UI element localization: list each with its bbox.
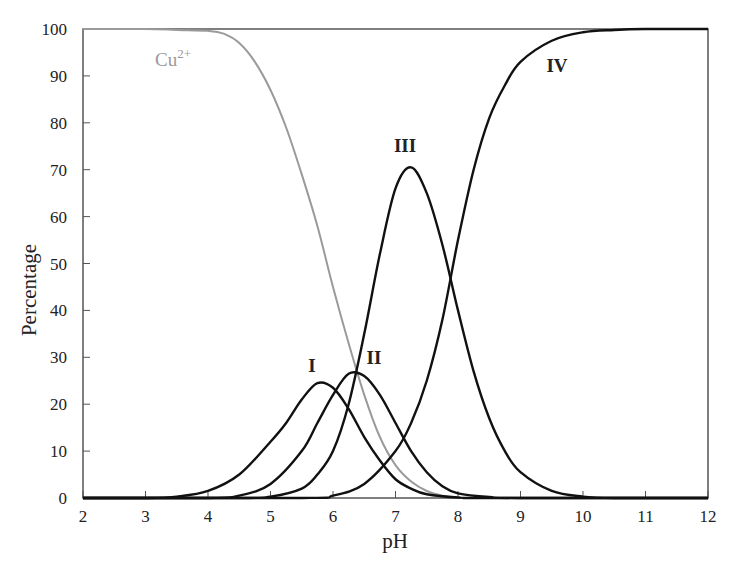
curve-iii	[83, 167, 708, 498]
curve-label-cu2: Cu2+	[155, 46, 191, 70]
x-tick-label: 11	[637, 507, 653, 526]
x-axis-title: pH	[382, 529, 408, 553]
curve-label-iii: III	[394, 135, 416, 156]
x-tick-label: 2	[79, 507, 88, 526]
y-tick-label: 40	[50, 301, 67, 320]
x-tick-label: 10	[575, 507, 592, 526]
x-tick-label: 12	[700, 507, 717, 526]
x-tick-label: 8	[454, 507, 463, 526]
curve-i	[83, 382, 708, 498]
y-tick-label: 50	[50, 255, 67, 274]
x-tick-label: 3	[141, 507, 150, 526]
y-tick-label: 90	[50, 67, 67, 86]
species-distribution-chart: 234567891011120102030405060708090100 Cu2…	[0, 0, 741, 571]
plot-frame	[83, 29, 708, 498]
x-tick-label: 9	[516, 507, 525, 526]
curve-label-iv: IV	[546, 55, 567, 76]
curve-iv	[83, 29, 708, 498]
plot-curves	[83, 29, 708, 498]
y-tick-label: 30	[50, 348, 67, 367]
curve-label-ii: II	[367, 347, 382, 368]
y-tick-label: 70	[50, 161, 67, 180]
y-axis-title: Percentage	[17, 244, 41, 336]
curve-cu2	[83, 29, 708, 498]
x-tick-label: 5	[266, 507, 275, 526]
y-tick-label: 0	[59, 489, 68, 508]
y-tick-label: 20	[50, 395, 67, 414]
x-tick-label: 6	[329, 507, 338, 526]
plot-axes: 234567891011120102030405060708090100	[42, 20, 717, 526]
curve-labels: Cu2+IIIIIIIV	[155, 46, 568, 376]
y-tick-label: 100	[42, 20, 68, 39]
x-tick-label: 7	[391, 507, 400, 526]
y-tick-label: 60	[50, 208, 67, 227]
y-tick-label: 10	[50, 442, 67, 461]
y-tick-label: 80	[50, 114, 67, 133]
x-tick-label: 4	[204, 507, 213, 526]
curve-label-i: I	[308, 355, 315, 376]
